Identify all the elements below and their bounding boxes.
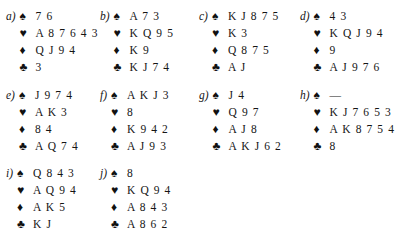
- hand-label-j: j): [100, 165, 111, 182]
- club-icon: ♣: [111, 216, 125, 233]
- suit-rows: ♠ A 7 3 ♥ K Q 9 5 ♦ K 9 ♣ K J 7 4: [114, 8, 174, 76]
- suit-row-spades: ♠ K J 8 7 5: [212, 8, 279, 25]
- suit-row-diamonds: ♦ A J 8: [213, 121, 282, 138]
- diamonds-cards: 8 4: [33, 121, 53, 138]
- clubs-cards: 8: [328, 138, 337, 155]
- spade-icon: ♠: [111, 87, 125, 104]
- club-icon: ♣: [114, 59, 128, 76]
- heart-icon: ♥: [19, 104, 33, 121]
- diamond-icon: ♦: [314, 42, 328, 59]
- clubs-cards: 3: [34, 59, 43, 76]
- spades-cards-void: —: [328, 87, 342, 104]
- heart-icon: ♥: [114, 25, 128, 42]
- suit-row-hearts: ♥ K J 7 6 5 3: [314, 104, 395, 121]
- heart-icon: ♥: [111, 182, 125, 199]
- diamond-icon: ♦: [20, 42, 34, 59]
- hand-label-e: e): [6, 87, 19, 104]
- spades-cards: A 7 3: [128, 8, 160, 25]
- hand-label-i: i): [6, 165, 17, 182]
- spades-cards: J 4: [227, 87, 245, 104]
- suit-row-clubs: ♣ 8: [314, 138, 395, 155]
- spade-icon: ♠: [314, 87, 328, 104]
- suit-row-clubs: ♣ A 8 6 2: [111, 216, 171, 233]
- suit-row-clubs: ♣ K J 7 4: [114, 59, 174, 76]
- bridge-hands-grid: a) ♠ 7 6 ♥ A 8 7 6 4 3 ♦ Q J 9 4 ♣ 3 b): [0, 0, 409, 242]
- suit-row-hearts: ♥ A Q 9 4: [17, 182, 77, 199]
- suit-row-diamonds: ♦ Q J 9 4: [20, 42, 99, 59]
- suit-row-diamonds: ♦ 9: [314, 42, 384, 59]
- club-icon: ♣: [17, 216, 31, 233]
- suit-row-hearts: ♥ A K 3: [19, 104, 79, 121]
- suit-row-clubs: ♣ A J 9 7 6: [314, 59, 384, 76]
- hand-h: h) ♠ — ♥ K J 7 6 5 3 ♦ A K 8 7 5 4 ♣ 8: [300, 87, 395, 155]
- hearts-cards: A 8 7 6 4 3: [34, 25, 99, 42]
- suit-row-hearts: ♥ K Q 9 4: [111, 182, 171, 199]
- suit-rows: ♠ — ♥ K J 7 6 5 3 ♦ A K 8 7 5 4 ♣ 8: [314, 87, 395, 155]
- heart-icon: ♥: [213, 104, 227, 121]
- suit-row-diamonds: ♦ A K 8 7 5 4: [314, 121, 395, 138]
- hand-label-c: c): [199, 8, 212, 25]
- suit-row-diamonds: ♦ A K 5: [17, 199, 77, 216]
- suit-row-clubs: ♣ A J: [212, 59, 279, 76]
- clubs-cards: K J 7 4: [128, 59, 171, 76]
- suit-rows: ♠ K J 8 7 5 ♥ K 3 ♦ Q 8 7 5 ♣ A J: [212, 8, 279, 76]
- spades-cards: 8: [125, 165, 134, 182]
- spades-cards: 4 3: [328, 8, 348, 25]
- clubs-cards: A Q 7 4: [33, 138, 79, 155]
- suit-row-spades: ♠ 4 3: [314, 8, 384, 25]
- diamonds-cards: Q J 9 4: [34, 42, 77, 59]
- hand-a: a) ♠ 7 6 ♥ A 8 7 6 4 3 ♦ Q J 9 4 ♣ 3: [6, 8, 99, 76]
- diamond-icon: ♦: [111, 121, 125, 138]
- diamond-icon: ♦: [17, 199, 31, 216]
- hand-d: d) ♠ 4 3 ♥ K Q J 9 4 ♦ 9 ♣ A J 9 7 6: [300, 8, 384, 76]
- suit-rows: ♠ 4 3 ♥ K Q J 9 4 ♦ 9 ♣ A J 9 7 6: [314, 8, 384, 76]
- diamonds-cards: A K 8 7 5 4: [328, 121, 395, 138]
- suit-row-clubs: ♣ 3: [20, 59, 99, 76]
- suit-rows: ♠ J 4 ♥ Q 9 7 ♦ A J 8 ♣ A K J 6 2: [213, 87, 282, 155]
- suit-row-diamonds: ♦ A 8 4 3: [111, 199, 171, 216]
- suit-row-spades: ♠ J 9 7 4: [19, 87, 79, 104]
- diamonds-cards: K 9: [128, 42, 150, 59]
- diamond-icon: ♦: [314, 121, 328, 138]
- hearts-cards: A Q 9 4: [31, 182, 77, 199]
- hand-label-b: b): [100, 8, 114, 25]
- suit-row-spades: ♠ J 4: [213, 87, 282, 104]
- hearts-cards: A K 3: [33, 104, 68, 121]
- suit-row-diamonds: ♦ K 9 4 2: [111, 121, 170, 138]
- suit-rows: ♠ 8 ♥ K Q 9 4 ♦ A 8 4 3 ♣ A 8 6 2: [111, 165, 171, 233]
- diamond-icon: ♦: [19, 121, 33, 138]
- diamonds-cards: A 8 4 3: [125, 199, 168, 216]
- hand-e: e) ♠ J 9 7 4 ♥ A K 3 ♦ 8 4 ♣ A Q 7 4: [6, 87, 79, 155]
- hand-c: c) ♠ K J 8 7 5 ♥ K 3 ♦ Q 8 7 5 ♣ A J: [199, 8, 279, 76]
- hand-i: i) ♠ Q 8 4 3 ♥ A Q 9 4 ♦ A K 5 ♣ K J: [6, 165, 77, 233]
- hearts-cards: Q 9 7: [227, 104, 260, 121]
- heart-icon: ♥: [111, 104, 125, 121]
- hand-f: f) ♠ A K J 3 ♥ 8 ♦ K 9 4 2 ♣ A J 9 3: [100, 87, 170, 155]
- diamonds-cards: K 9 4 2: [125, 121, 169, 138]
- suit-row-clubs: ♣ A J 9 3: [111, 138, 170, 155]
- suit-row-diamonds: ♦ K 9: [114, 42, 174, 59]
- spades-cards: K J 8 7 5: [226, 8, 279, 25]
- diamonds-cards: A K 5: [31, 199, 66, 216]
- spade-icon: ♠: [314, 8, 328, 25]
- suit-row-hearts: ♥ 8: [111, 104, 170, 121]
- spades-cards: Q 8 4 3: [31, 165, 75, 182]
- clubs-cards: A J: [226, 59, 246, 76]
- spade-icon: ♠: [19, 87, 33, 104]
- spades-cards: 7 6: [34, 8, 54, 25]
- diamond-icon: ♦: [114, 42, 128, 59]
- suit-row-hearts: ♥ K 3: [212, 25, 279, 42]
- clubs-cards: A J 9 3: [125, 138, 167, 155]
- club-icon: ♣: [213, 138, 227, 155]
- suit-row-hearts: ♥ Q 9 7: [213, 104, 282, 121]
- spade-icon: ♠: [212, 8, 226, 25]
- hand-label-h: h): [300, 87, 314, 104]
- hand-g: g) ♠ J 4 ♥ Q 9 7 ♦ A J 8 ♣ A K J 6 2: [199, 87, 282, 155]
- clubs-cards: K J: [31, 216, 52, 233]
- spades-cards: A K J 3: [125, 87, 170, 104]
- hearts-cards: K Q J 9 4: [328, 25, 384, 42]
- clubs-cards: A J 9 7 6: [328, 59, 381, 76]
- suit-row-diamonds: ♦ Q 8 7 5: [212, 42, 279, 59]
- diamonds-cards: A J 8: [227, 121, 258, 138]
- club-icon: ♣: [314, 138, 328, 155]
